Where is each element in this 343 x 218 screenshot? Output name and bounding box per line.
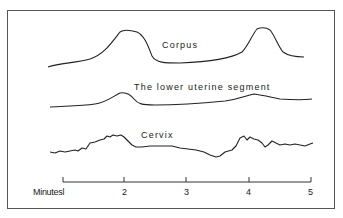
x-tick-3: 3 <box>184 187 189 197</box>
x-axis-title: Minutesl <box>33 187 64 197</box>
x-axis <box>63 177 311 182</box>
cervix-trace <box>50 135 313 157</box>
x-tick-4: 4 <box>246 187 251 197</box>
x-tick-2: 2 <box>122 187 127 197</box>
chart-plot <box>0 0 343 218</box>
corpus-label: Corpus <box>162 40 198 50</box>
lower-segment-trace <box>50 93 312 107</box>
cervix-label: Cervix <box>141 130 174 140</box>
lower-segment-label: The lower uterine segment <box>134 82 271 92</box>
x-tick-5: 5 <box>308 187 313 197</box>
